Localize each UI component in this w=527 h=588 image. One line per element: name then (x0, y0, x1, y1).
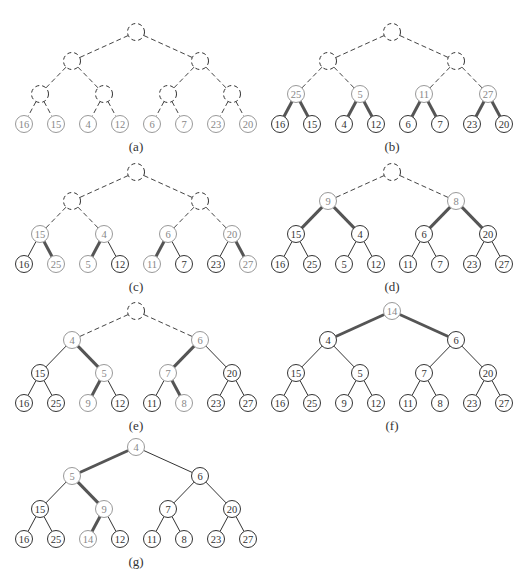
heap-node: 6 (192, 468, 209, 485)
tree-edge (144, 315, 193, 337)
tree-edge (174, 207, 194, 228)
panel-label: (g) (128, 554, 143, 569)
tree-edge (44, 242, 52, 257)
tree-edge (206, 67, 226, 88)
heap-node: 5 (336, 256, 353, 273)
tree-edge (46, 67, 66, 88)
heap-node: 12 (112, 116, 129, 133)
node-key: 11 (147, 259, 157, 270)
node-key: 25 (51, 398, 62, 409)
node-key: 16 (275, 119, 286, 130)
tree-edge (220, 381, 228, 396)
node-key: 16 (19, 398, 30, 409)
tree-edge (46, 207, 66, 228)
tree-edge (476, 102, 484, 117)
tree-edge (300, 381, 308, 396)
heap-node: 15 (288, 365, 305, 382)
heap-node: 16 (272, 116, 289, 133)
tree-edge (80, 36, 129, 58)
heap-node: 20 (224, 365, 241, 382)
panel-e: 4615572016259121182327(e) (16, 303, 257, 434)
tree-edge (28, 102, 36, 117)
node-key: 23 (467, 259, 478, 270)
heap-node: 4 (80, 116, 97, 133)
tree-edge (412, 102, 420, 117)
heap-node: 23 (464, 256, 481, 273)
tree-edge (46, 482, 66, 503)
tree-edge (156, 102, 164, 117)
heap-node: 5 (352, 86, 369, 103)
heap-node: 7 (432, 116, 449, 133)
tree-edge (206, 346, 226, 367)
tree-edge (156, 381, 164, 396)
node-key: 12 (115, 534, 126, 545)
tree-edge (80, 451, 129, 473)
tree-edge (236, 517, 244, 532)
node-key: 6 (197, 471, 202, 482)
heap-node: 16 (272, 395, 289, 412)
empty-node (128, 164, 145, 181)
tree-edge (336, 176, 385, 198)
tree-edge (462, 346, 482, 367)
tree-edge (492, 102, 500, 117)
tree-edge (92, 102, 100, 117)
heap-node: 20 (240, 116, 257, 133)
panel-label: (f) (386, 418, 399, 433)
node-key: 4 (357, 229, 363, 240)
node-key: 5 (357, 89, 362, 100)
heap-node: 27 (480, 86, 497, 103)
heap-node: 11 (144, 531, 161, 548)
node-key: 25 (291, 89, 302, 100)
tree-edge (430, 346, 450, 367)
heap-node: 27 (240, 395, 257, 412)
node-key: 5 (357, 368, 362, 379)
heap-node: 7 (160, 365, 177, 382)
tree-edge (462, 67, 482, 88)
node-key: 7 (165, 504, 170, 515)
tree-edge (400, 36, 449, 58)
tree-edge (78, 346, 98, 367)
node-key: 27 (483, 89, 494, 100)
heap-node: 8 (176, 395, 193, 412)
tree-edge (46, 346, 66, 367)
node-key: 20 (243, 119, 254, 130)
panel-label: (b) (384, 139, 399, 154)
tree-edge (428, 381, 436, 396)
heap-node: 5 (96, 365, 113, 382)
tree-edge (300, 102, 308, 117)
tree-edge (92, 517, 100, 532)
node-key: 6 (197, 335, 202, 346)
node-key: 11 (147, 398, 157, 409)
heap-node: 11 (400, 395, 417, 412)
node-key: 23 (211, 119, 222, 130)
node-key: 20 (499, 119, 510, 130)
node-key: 9 (101, 504, 106, 515)
heap-node: 14 (80, 531, 97, 548)
heap-node: 9 (80, 395, 97, 412)
node-key: 15 (307, 119, 318, 130)
tree-edge (300, 242, 308, 257)
node-key: 20 (483, 368, 494, 379)
heap-node: 16 (16, 256, 33, 273)
tree-edge (364, 381, 372, 396)
heap-node: 12 (368, 395, 385, 412)
node-key: 7 (181, 119, 186, 130)
tree-edge (92, 242, 100, 257)
tree-edge (364, 242, 372, 257)
tree-edge (206, 207, 226, 228)
tree-edge (78, 207, 98, 228)
tree-edge (336, 36, 385, 58)
tree-edge (108, 242, 116, 257)
empty-node (384, 164, 401, 181)
tree-edge (412, 381, 420, 396)
node-key: 12 (371, 119, 382, 130)
node-key: 7 (165, 368, 170, 379)
tree-edge (348, 381, 356, 396)
heap-node: 16 (16, 116, 33, 133)
heap-node: 23 (208, 116, 225, 133)
heap-node: 20 (480, 365, 497, 382)
tree-edge (236, 242, 244, 257)
empty-node (128, 303, 145, 320)
node-key: 20 (483, 229, 494, 240)
heap-node: 12 (368, 116, 385, 133)
